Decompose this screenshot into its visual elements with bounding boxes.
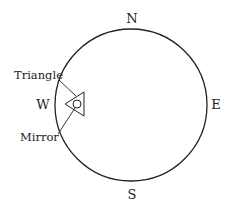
west-label: W [36,97,50,112]
mirror-leader-line [58,108,75,134]
triangle-label: Triangle [14,68,63,82]
south-label: S [128,187,137,202]
mirror-label: Mirror [20,130,59,144]
east-label: E [211,97,221,112]
mirror-circle [73,100,81,108]
compass-diagram: N E S W Triangle Mirror [0,0,231,206]
north-label: N [126,11,137,26]
compass-circle [55,29,207,181]
triangle-leader-line [59,80,76,96]
